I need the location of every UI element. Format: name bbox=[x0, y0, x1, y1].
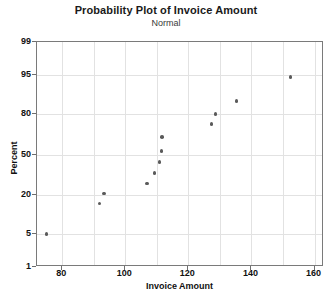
gridline-vertical bbox=[283, 42, 284, 265]
data-point bbox=[214, 112, 218, 116]
gridline-vertical bbox=[62, 42, 63, 265]
x-tick-mark bbox=[314, 266, 315, 270]
gridline-vertical bbox=[315, 42, 316, 265]
y-tick-mark bbox=[32, 266, 36, 267]
data-point bbox=[210, 122, 214, 126]
data-point bbox=[235, 99, 239, 103]
x-tick-mark bbox=[124, 266, 125, 270]
gridline-horizontal bbox=[37, 75, 322, 76]
plot-area bbox=[36, 41, 323, 266]
data-point bbox=[45, 232, 49, 236]
data-point bbox=[160, 149, 164, 153]
data-point bbox=[158, 160, 162, 164]
y-tick-label: 20 bbox=[7, 189, 31, 199]
x-axis-label: Invoice Amount bbox=[36, 281, 323, 291]
gridline-vertical bbox=[125, 42, 126, 265]
gridline-horizontal bbox=[37, 155, 322, 156]
gridline-vertical bbox=[188, 42, 189, 265]
data-point bbox=[160, 135, 164, 139]
chart-title: Probability Plot of Invoice Amount bbox=[0, 4, 332, 16]
gridline-vertical bbox=[94, 42, 95, 265]
y-tick-label: 99 bbox=[7, 36, 31, 46]
data-point bbox=[102, 192, 106, 196]
y-tick-label: 50 bbox=[7, 149, 31, 159]
gridline-horizontal bbox=[37, 114, 322, 115]
probability-plot: Probability Plot of Invoice Amount Norma… bbox=[0, 0, 332, 294]
x-tick-mark bbox=[61, 266, 62, 270]
data-point bbox=[289, 75, 293, 79]
gridline-vertical bbox=[220, 42, 221, 265]
y-tick-label: 5 bbox=[7, 228, 31, 238]
chart-subtitle: Normal bbox=[0, 18, 332, 28]
data-point bbox=[145, 182, 149, 186]
y-tick-label: 95 bbox=[7, 69, 31, 79]
y-tick-label: 80 bbox=[7, 108, 31, 118]
data-point bbox=[98, 202, 102, 206]
gridline-vertical bbox=[251, 42, 252, 265]
x-tick-mark bbox=[250, 266, 251, 270]
gridline-vertical bbox=[157, 42, 158, 265]
x-tick-mark bbox=[187, 266, 188, 270]
gridline-horizontal bbox=[37, 234, 322, 235]
y-tick-label: 1 bbox=[7, 261, 31, 271]
gridline-horizontal bbox=[37, 195, 322, 196]
